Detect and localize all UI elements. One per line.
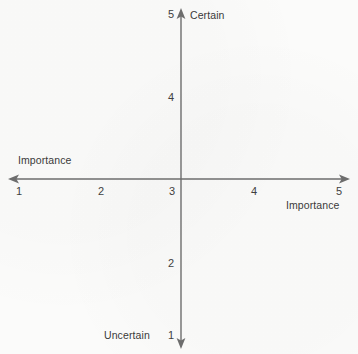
axes-svg bbox=[0, 0, 358, 354]
importance-label-right: Importance bbox=[286, 200, 340, 211]
quadrant-axes-diagram: 5 Certain 4 2 1 Uncertain Importance 1 2… bbox=[0, 0, 358, 354]
y-tick-4: 4 bbox=[150, 92, 174, 103]
x-tick-3: 3 bbox=[162, 186, 182, 197]
uncertain-label: Uncertain bbox=[104, 330, 150, 341]
certain-label: Certain bbox=[190, 10, 225, 21]
x-tick-5: 5 bbox=[329, 186, 349, 197]
y-tick-1: 1 bbox=[150, 330, 174, 341]
importance-label-left: Importance bbox=[18, 155, 72, 166]
x-tick-2: 2 bbox=[91, 186, 111, 197]
x-tick-1: 1 bbox=[9, 186, 29, 197]
y-tick-5: 5 bbox=[150, 9, 174, 20]
y-tick-2: 2 bbox=[150, 258, 174, 269]
x-tick-4: 4 bbox=[244, 186, 264, 197]
